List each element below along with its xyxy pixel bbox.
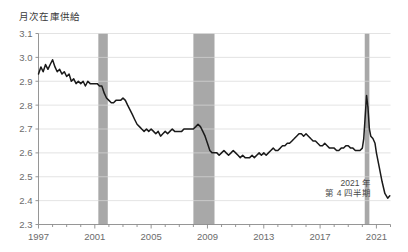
last-point-label-line1: 2021 年 (341, 178, 371, 188)
x-tick-label: 2017 (310, 231, 331, 242)
y-tick-label: 2.6 (19, 147, 32, 158)
y-tick-label: 2.3 (19, 219, 32, 230)
y-tick-label: 3.0 (19, 52, 32, 63)
y-axis-tick-labels: 3.13.02.92.82.72.62.52.42.3 (19, 28, 32, 230)
y-tick-label: 3.1 (19, 28, 32, 39)
chart-annotations: 2021 年第 4 四半期 (325, 178, 370, 198)
y-tick-label: 2.8 (19, 100, 32, 111)
x-tick-label: 1997 (28, 231, 49, 242)
y-tick-label: 2.9 (19, 76, 32, 87)
x-tick-label: 2001 (84, 231, 105, 242)
chart-canvas: 3.13.02.92.82.72.62.52.42.3 199720012005… (0, 0, 408, 252)
y-tick-label: 2.7 (19, 123, 32, 134)
last-point-label-line2: 第 4 四半期 (325, 188, 370, 198)
x-axis-tickmarks (39, 225, 391, 229)
y-tick-label: 2.5 (19, 171, 32, 182)
y-tick-label: 2.4 (19, 195, 32, 206)
inventory-supply-chart: 月次在庫供給 3.13.02.92.82.72.62.52.42.3 19972… (0, 0, 408, 252)
x-tick-label: 2021 (366, 231, 387, 242)
x-tick-label: 2013 (253, 231, 274, 242)
x-tick-label: 2009 (197, 231, 218, 242)
x-tick-label: 2005 (141, 231, 162, 242)
x-axis-tick-labels: 1997200120052009201320172021 (28, 231, 387, 242)
